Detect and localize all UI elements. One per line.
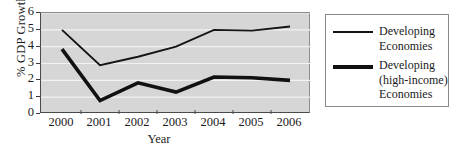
y-tick-label: 0 [16, 108, 34, 117]
y-tickmark [36, 79, 40, 80]
plot-area [40, 12, 310, 113]
y-tickmark [36, 96, 40, 97]
y-tick-label: 3 [16, 58, 34, 67]
x-tick-label: 2000 [41, 115, 81, 130]
legend-item-developing-high-income-economies: Developing (high-income) Economies [333, 58, 448, 102]
y-tick-label: 1 [16, 91, 34, 100]
legend-swatch-thin-line [333, 31, 373, 33]
plot-svg [41, 13, 311, 114]
chart-figure: % GDP Growth 0123456 2000200120022003200… [0, 0, 456, 153]
series-line-developing-economies [62, 26, 290, 65]
y-tick-label: 5 [16, 24, 34, 33]
legend-item-developing-economies: Developing Economies [333, 24, 435, 53]
series-line-developing-high-income [62, 49, 290, 100]
y-tick-label: 6 [16, 7, 34, 16]
legend-box: Developing Economies Developing (high-in… [325, 14, 449, 107]
legend-label-developing-economies: Developing Economies [379, 24, 435, 53]
x-axis-title: Year [0, 132, 318, 147]
x-tick-label: 2002 [117, 115, 157, 130]
y-tickmark [36, 46, 40, 47]
y-tickmark [36, 113, 40, 114]
x-tick-label: 2003 [155, 115, 195, 130]
gridlines [41, 13, 311, 97]
x-axis-tickmarks [81, 110, 271, 114]
x-tick-label: 2001 [79, 115, 119, 130]
legend-label-developing-high-income-economies: Developing (high-income) Economies [379, 58, 448, 102]
x-tick-label: 2004 [193, 115, 233, 130]
y-tickmark [36, 63, 40, 64]
y-tick-label: 4 [16, 41, 34, 50]
y-tickmark [36, 29, 40, 30]
x-tick-label: 2005 [231, 115, 271, 130]
y-tick-label: 2 [16, 74, 34, 83]
x-tick-label: 2006 [269, 115, 309, 130]
legend-swatch-thick-line [333, 65, 373, 69]
y-tickmark [36, 12, 40, 13]
